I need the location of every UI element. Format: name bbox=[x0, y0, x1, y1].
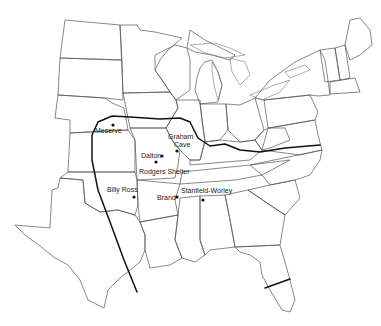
state-boundaries bbox=[15, 18, 372, 312]
site-label-rodgers-shelter: Rodgers Shelter bbox=[139, 168, 190, 175]
map-canvas bbox=[0, 0, 381, 326]
site-label-cave: Cave bbox=[174, 141, 190, 148]
site-dot-rodgers-shelter bbox=[154, 160, 157, 163]
site-label-stanfield-worley: Stanfield-Worley bbox=[181, 187, 232, 194]
site-label-meserve: Meserve bbox=[95, 127, 122, 134]
great-lakes bbox=[190, 43, 310, 100]
site-label-billy-ross: Billy Ross bbox=[107, 186, 138, 193]
florida-line bbox=[265, 279, 290, 288]
site-dot-billy-ross bbox=[132, 195, 135, 198]
site-label-graham: Graham bbox=[168, 133, 193, 140]
site-dot-stanfield-worley bbox=[201, 198, 204, 201]
site-label-dalton: Dalton bbox=[141, 152, 161, 159]
site-dot-graham-cave bbox=[175, 149, 178, 152]
site-label-brand: Brand bbox=[157, 194, 176, 201]
